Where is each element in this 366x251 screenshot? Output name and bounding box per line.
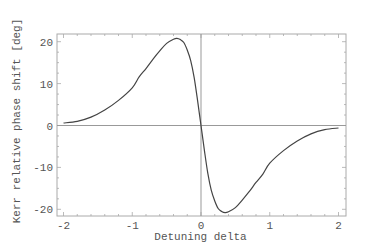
y-tick-labels: -20-1001020: [33, 37, 53, 217]
x-tick-label: 2: [335, 220, 342, 232]
x-tick-label: -1: [126, 220, 140, 232]
y-axis-title: Kerr relative phase shift [deg]: [11, 19, 23, 224]
x-axis-title: Detuning delta: [154, 231, 247, 243]
x-tick-label: 1: [266, 220, 273, 232]
y-tick-label: 20: [40, 37, 53, 49]
kerr-phase-shift-chart: -2-1012 -20-1001020 Detuning delta Kerr …: [0, 0, 366, 251]
x-tick-label: -2: [57, 220, 70, 232]
y-tick-label: -20: [33, 204, 53, 216]
y-tick-label: 0: [46, 121, 53, 133]
y-tick-label: -10: [33, 162, 53, 174]
y-tick-label: 10: [40, 79, 53, 91]
